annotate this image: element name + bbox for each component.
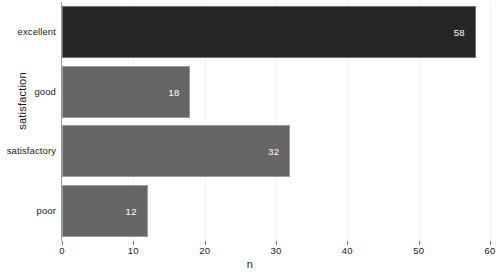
x-axis-tick-label: 50 <box>413 245 424 256</box>
bar-value-label-satisfactory: 32 <box>268 146 279 157</box>
y-axis-tick-label-excellent: excellent <box>18 26 56 37</box>
x-axis-tick-label: 40 <box>342 245 353 256</box>
bar-value-label-excellent: 58 <box>454 26 465 37</box>
bar-excellent[interactable] <box>62 6 476 58</box>
x-axis-tick-label: 10 <box>128 245 139 256</box>
y-axis-title: satisfaction <box>16 41 28 161</box>
bar-value-label-poor: 12 <box>126 206 137 217</box>
bar-row: 18 <box>62 66 490 118</box>
bar-chart: satisfaction n 58excellent18good32satisf… <box>0 0 500 274</box>
x-axis-tick-label: 30 <box>271 245 282 256</box>
y-axis-tick-label-good: good <box>34 86 56 97</box>
bar-row: 32 <box>62 125 490 177</box>
bar-row: 58 <box>62 6 490 58</box>
x-axis-tick-label: 20 <box>199 245 210 256</box>
bar-row: 12 <box>62 185 490 237</box>
bar-satisfactory[interactable] <box>62 125 290 177</box>
x-axis-tick-label: 0 <box>59 245 64 256</box>
gridline <box>490 2 491 241</box>
y-axis-tick-label-poor: poor <box>37 205 56 216</box>
bar-value-label-good: 18 <box>168 86 179 97</box>
x-axis-tick-label: 60 <box>485 245 496 256</box>
x-axis-title: n <box>0 258 500 270</box>
y-axis-tick-label-satisfactory: satisfactory <box>7 145 56 156</box>
